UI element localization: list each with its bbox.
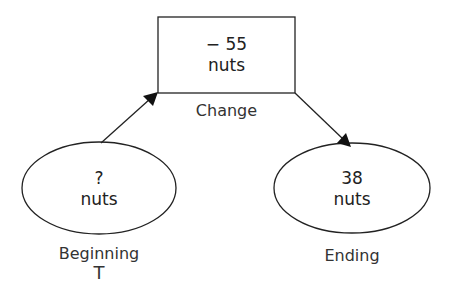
change-node-text: − 55 nuts <box>158 34 295 76</box>
ending-label: Ending <box>274 246 430 265</box>
beginning-sublabel: T <box>22 263 176 283</box>
ending-node-text: 38 nuts <box>274 168 430 210</box>
beginning-unit: nuts <box>22 189 176 210</box>
beginning-label: Beginning T <box>22 244 176 283</box>
change-label: Change <box>158 101 295 120</box>
arrow-beginning-to-change <box>101 92 158 143</box>
beginning-value: ? <box>22 168 176 189</box>
ending-value: 38 <box>274 168 430 189</box>
arrow-change-to-ending <box>295 93 351 147</box>
ending-unit: nuts <box>274 189 430 210</box>
beginning-node-text: ? nuts <box>22 168 176 210</box>
change-unit: nuts <box>158 55 295 76</box>
change-value: − 55 <box>158 34 295 55</box>
beginning-label-text: Beginning <box>22 244 176 263</box>
